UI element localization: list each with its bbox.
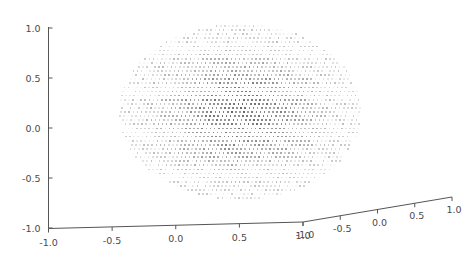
z-tick-label: -1.0 [22, 223, 41, 234]
y-tick-label: -1.0 [296, 229, 315, 240]
x-tick-label: -0.5 [103, 235, 122, 246]
y-tick-label: 0.0 [372, 217, 387, 228]
z-tick-label: 0.0 [25, 123, 40, 134]
y-tick-label: 1.0 [446, 204, 461, 215]
x-tick-label: 0.0 [168, 233, 183, 244]
z-axis-ticks: 1.00.50.0-0.5-1.0 [22, 23, 53, 234]
point-cloud [119, 25, 361, 199]
z-tick-label: 0.5 [25, 73, 40, 84]
z-tick-label: 1.0 [25, 23, 40, 34]
scatter-plot-3d: 1.00.50.0-0.5-1.0 -1.0-0.50.00.51.0 -1.0… [0, 0, 475, 271]
z-axis: 1.00.50.0-0.5-1.0 [22, 23, 53, 234]
y-axis: -1.0-0.50.00.51.0 [296, 197, 462, 240]
figure-canvas: 1.00.50.0-0.5-1.0 -1.0-0.50.00.51.0 -1.0… [0, 0, 475, 271]
x-tick-label: -1.0 [39, 237, 58, 248]
z-tick-label: -0.5 [22, 173, 41, 184]
y-tick-label: 0.5 [409, 210, 424, 221]
x-tick-label: 0.5 [232, 232, 247, 243]
y-axis-ticks: -1.0-0.50.00.51.0 [296, 197, 462, 240]
x-axis-ticks: -1.0-0.50.00.51.0 [39, 222, 310, 248]
y-tick-label: -0.5 [333, 223, 352, 234]
x-axis: -1.0-0.50.00.51.0 [39, 222, 310, 248]
